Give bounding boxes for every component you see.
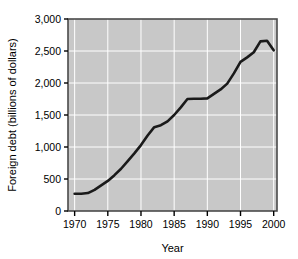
y-tick-label: 500	[43, 173, 61, 185]
x-tick-label: 2000	[262, 218, 286, 230]
x-axis-title: Year	[161, 242, 184, 254]
x-tick-label: 1980	[129, 218, 153, 230]
x-axis-tick-labels: 1970197519801985199019952000	[63, 218, 286, 230]
x-tick-label: 1975	[96, 218, 120, 230]
x-tick-label: 1995	[229, 218, 253, 230]
x-tick-label: 1990	[196, 218, 220, 230]
figure-container: 05001,0001,5002,0002,5003,000 1970197519…	[0, 0, 298, 259]
y-tick-label: 2,500	[35, 45, 61, 57]
y-tick-label: 0	[55, 205, 61, 217]
y-tick-label: 2,000	[35, 77, 61, 89]
y-axis-tick-labels: 05001,0001,5002,0002,5003,000	[35, 13, 61, 217]
foreign-debt-line-chart: 05001,0001,5002,0002,5003,000 1970197519…	[0, 0, 298, 259]
y-tick-label: 3,000	[35, 13, 61, 25]
y-axis-title: Foreign debt (billions of dollars)	[6, 38, 18, 191]
y-tick-label: 1,500	[35, 109, 61, 121]
y-tick-label: 1,000	[35, 141, 61, 153]
x-tick-label: 1985	[162, 218, 186, 230]
x-tick-label: 1970	[63, 218, 87, 230]
